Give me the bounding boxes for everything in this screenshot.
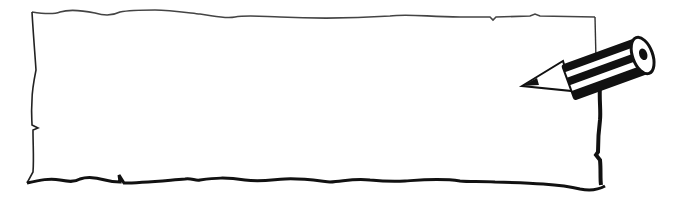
note-banner [0,0,681,203]
paper-frame-icon [0,0,681,203]
pencil-icon [522,34,659,100]
